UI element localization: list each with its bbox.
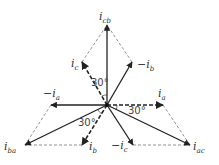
origin-point: [105, 103, 109, 107]
label-i-b: ib: [89, 140, 98, 155]
angle-labels: 30°30°30°: [78, 77, 146, 128]
diagram-canvas: icb−ib−iaiba−iciaciciaib 30°30°30°: [0, 0, 219, 165]
label-i-c: ic: [71, 57, 79, 72]
phasor-diagram: icb−ib−iaiba−iciaciciaib 30°30°30°: [0, 0, 219, 165]
label-neg-i-a: −ia: [43, 87, 60, 102]
angle-label: 30°: [91, 77, 109, 88]
label-i-a: ia: [158, 87, 166, 102]
dashed-vectors: [82, 62, 163, 145]
vector-neg-i-b: [107, 62, 132, 105]
angle-label: 30°: [128, 105, 146, 116]
label-i-ac: iac: [193, 140, 205, 155]
label-i-ba: iba: [4, 140, 16, 155]
angle-label: 30°: [78, 117, 96, 128]
label-neg-i-c: −ic: [111, 139, 128, 154]
label-neg-i-b: −ib: [137, 58, 155, 73]
label-i-cb: icb: [99, 10, 111, 25]
